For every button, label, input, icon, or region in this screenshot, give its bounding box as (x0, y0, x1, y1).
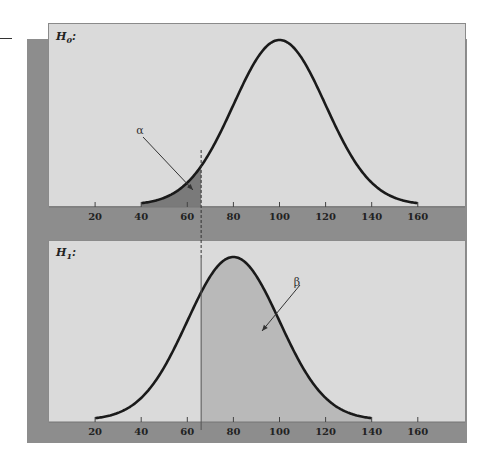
h1-label-colon: : (72, 246, 76, 259)
h0-label-colon: : (72, 30, 76, 43)
x-tick-label: 20 (88, 211, 102, 222)
x-tick-label: 60 (180, 426, 194, 437)
h1-label-main: H (56, 246, 66, 259)
x-tick-label: 40 (134, 211, 148, 222)
x-tick-label: 120 (315, 426, 336, 437)
beta-region (201, 257, 372, 422)
x-tick-label: 20 (88, 426, 102, 437)
beta-label: β (294, 276, 300, 289)
x-tick-label: 80 (226, 211, 240, 222)
x-tick-label: 160 (407, 426, 428, 437)
x-tick-label: 60 (180, 211, 194, 222)
x-tick-label: 120 (315, 211, 336, 222)
x-tick-label: 80 (226, 426, 240, 437)
alpha-arrow (143, 137, 193, 190)
x-tick-label: 100 (269, 211, 290, 222)
x-tick-label: 160 (407, 211, 428, 222)
x-tick-label: 100 (269, 426, 290, 437)
x-tick-label: 140 (361, 211, 382, 222)
h0-label: H0: (56, 30, 76, 45)
hypothesis-test-chart: 20406080100120140160α2040608010012014016… (0, 0, 497, 462)
h0-label-main: H (56, 30, 66, 43)
h1-label: H1: (56, 246, 76, 261)
alpha-label: α (136, 124, 144, 137)
x-tick-label: 40 (134, 426, 148, 437)
x-tick-label: 140 (361, 426, 382, 437)
